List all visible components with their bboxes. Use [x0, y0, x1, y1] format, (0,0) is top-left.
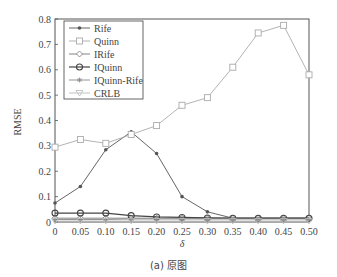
y-tick-label: 0.8 [39, 14, 52, 25]
figure-caption: (a) 原图 [0, 257, 337, 272]
series-line [55, 132, 309, 218]
dot-marker-icon [180, 195, 184, 199]
dot-marker-icon [53, 201, 57, 205]
square-marker-icon [103, 140, 109, 146]
x-tick-label: 0.45 [275, 226, 293, 237]
rmse-line-chart: 00.050.100.150.200.250.300.350.400.450.5… [0, 0, 337, 277]
legend-label: IQuinn [94, 62, 122, 73]
square-marker-icon [77, 137, 83, 143]
y-tick-label: 0.3 [39, 140, 52, 151]
x-tick-label: 0.25 [173, 226, 191, 237]
square-marker-icon [179, 102, 185, 108]
y-tick-label: 0.2 [39, 166, 52, 177]
y-tick-label: 0.6 [39, 64, 52, 75]
x-tick-label: 0 [53, 226, 58, 237]
y-tick-label: 0 [46, 217, 51, 228]
x-axis-title: δ [180, 238, 185, 249]
square-marker-icon [255, 30, 261, 36]
x-tick-label: 0.20 [148, 226, 166, 237]
x-tick-label: 0.35 [224, 226, 242, 237]
series-rife [53, 130, 311, 220]
y-tick-label: 0.7 [39, 39, 52, 50]
x-tick-label: 0.15 [122, 226, 140, 237]
square-marker-icon [52, 144, 58, 150]
y-axis-title: RMSE [12, 108, 23, 135]
x-tick-label: 0.05 [72, 226, 90, 237]
legend-label: Rife [94, 23, 112, 34]
square-marker-icon [230, 64, 236, 70]
legend-label: IRife [94, 49, 115, 60]
dot-marker-icon [79, 185, 83, 189]
square-marker-icon [281, 22, 287, 28]
square-marker-icon [154, 123, 160, 129]
star-marker-icon [77, 78, 82, 83]
legend: RifeQuinnIRifeIQuinnIQuinn-RifeCRLB [64, 21, 143, 99]
square-marker-icon [204, 95, 210, 101]
x-tick-label: 0.40 [249, 226, 267, 237]
square-marker-icon [306, 72, 312, 78]
y-tick-label: 0.4 [39, 115, 52, 126]
legend-label: Quinn [94, 36, 119, 47]
x-tick-label: 0.50 [300, 226, 318, 237]
x-tick-label: 0.30 [199, 226, 217, 237]
legend-label: CRLB [94, 88, 120, 99]
square-marker-icon [77, 38, 83, 44]
dot-marker-icon [104, 148, 108, 152]
y-tick-label: 0.5 [39, 90, 52, 101]
x-tick-label: 0.10 [97, 226, 115, 237]
dot-marker-icon [78, 26, 82, 30]
dot-marker-icon [206, 210, 210, 214]
square-marker-icon [128, 131, 134, 137]
legend-label: IQuinn-Rife [94, 75, 143, 86]
dot-marker-icon [155, 152, 159, 156]
y-tick-label: 0.1 [39, 191, 52, 202]
